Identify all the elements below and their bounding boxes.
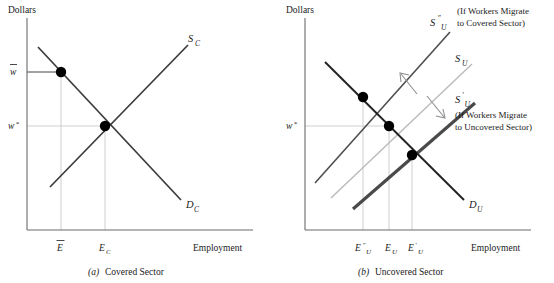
y-tick-star-glyph: * xyxy=(16,120,20,128)
migrate-to-covered-note-line2: to Covered Sector) xyxy=(457,18,525,28)
supply-prime-label-sub: U xyxy=(465,100,471,109)
panel-b-caption-text: Uncovered Sector xyxy=(375,267,444,277)
x-tick-label-e-bar: E xyxy=(56,243,63,253)
panel-b-x-tick-e-prime: E ′ U xyxy=(407,241,424,256)
supply-curve-covered xyxy=(50,45,188,187)
x-tick-e-prime-mark: ′ xyxy=(415,241,417,249)
equilibrium-point-double-prime xyxy=(358,92,368,102)
panel-b-uncovered-sector: Dollars Employment w * E ″ U E U E ′ U S… xyxy=(286,5,532,278)
demand-covered-label-sub: C xyxy=(194,205,200,214)
supply-covered-label-text: S xyxy=(188,33,194,44)
panel-a-x-tick-e-bar: E xyxy=(56,241,65,254)
x-tick-label-e-u: E xyxy=(384,243,391,253)
panel-b-x-tick-e-double-prime: E ″ U xyxy=(354,241,372,256)
supply-uncovered-label-text: S xyxy=(455,53,461,64)
panel-a-covered-sector: Dollars Employment w w * E E C S C D C xyxy=(8,5,253,278)
panel-a-guides xyxy=(27,72,105,230)
panel-a-y-tick-w-bar: w xyxy=(10,65,17,78)
x-tick-label-e-c-sub: C xyxy=(106,248,111,256)
x-tick-e-prime-sub: U xyxy=(418,248,424,256)
migrate-to-covered-note: (If Workers Migrate to Covered Sector) xyxy=(457,6,529,28)
supply-uncovered-double-prime-label: S ″ U xyxy=(430,14,447,32)
supply-uncovered-label-sub: U xyxy=(462,59,468,68)
panel-a-caption: (a) Covered Sector xyxy=(88,267,165,278)
equilibrium-point-covered xyxy=(100,121,110,131)
y-tick-label-w-star: w xyxy=(8,121,15,131)
panel-a-y-tick-w-star: w * xyxy=(8,120,20,132)
supply-uncovered-double-prime-curve xyxy=(315,32,450,183)
panel-b-y-axis-label: Dollars xyxy=(286,5,314,15)
supply-covered-label-sub: C xyxy=(195,39,201,48)
panel-b-caption: (b) Uncovered Sector xyxy=(358,267,444,278)
figure-svg: Dollars Employment w w * E E C S C D C xyxy=(0,0,554,283)
supply-double-prime-label-sub: U xyxy=(441,23,447,32)
demand-covered-label: D C xyxy=(185,199,200,214)
demand-covered-label-text: D xyxy=(185,199,194,210)
supply-uncovered-label: S U xyxy=(455,53,468,68)
panel-b-x-tick-e-u: E U xyxy=(384,243,398,256)
demand-uncovered-label-text: D xyxy=(468,199,477,210)
economics-figure: Dollars Employment w w * E E C S C D C xyxy=(0,0,554,283)
panel-a-y-axis-label: Dollars xyxy=(8,5,36,15)
equilibrium-point-uncovered xyxy=(384,121,394,131)
shift-left-arrow xyxy=(400,73,417,94)
supply-double-prime-label-text: S xyxy=(430,17,436,28)
x-tick-label-e-prime: E xyxy=(407,243,414,253)
migrate-to-uncovered-note-line1: (If Workers Migrate xyxy=(455,110,527,120)
panel-b-x-axis-label: Employment xyxy=(471,243,520,253)
panel-a-caption-text: Covered Sector xyxy=(105,267,165,277)
panel-b-y-tick-w-star: w * xyxy=(286,120,298,132)
panel-a-x-axis-label: Employment xyxy=(193,243,242,253)
supply-prime-label-text: S xyxy=(455,94,461,105)
supply-uncovered-prime-label: S ′ U xyxy=(455,91,471,109)
supply-uncovered-curve xyxy=(331,64,472,198)
migrate-to-uncovered-note: (If Workers Migrate to Uncovered Sector) xyxy=(455,110,532,132)
panel-b-guides xyxy=(305,97,412,230)
panel-a-caption-letter: (a) xyxy=(88,267,99,278)
panel-b-caption-letter: (b) xyxy=(358,267,369,278)
migrate-to-uncovered-note-line2: to Uncovered Sector) xyxy=(455,122,532,132)
shift-right-arrow xyxy=(427,96,445,118)
equilibrium-point-prime xyxy=(407,150,417,160)
x-tick-e-double-prime-sub: U xyxy=(366,248,372,256)
migrate-to-covered-note-line1: (If Workers Migrate xyxy=(457,6,529,16)
x-tick-e-u-sub: U xyxy=(392,248,398,256)
y-tick-star-glyph-b: * xyxy=(294,120,298,128)
wage-floor-point xyxy=(56,67,66,77)
panel-a-x-tick-e-c: E C xyxy=(98,243,111,256)
supply-covered-label: S C xyxy=(188,33,201,48)
demand-uncovered-label-sub: U xyxy=(477,205,483,214)
y-tick-label-w-star-b: w xyxy=(286,121,293,131)
demand-uncovered-label: D U xyxy=(468,199,483,214)
y-tick-label-w-bar: w xyxy=(10,67,17,77)
x-tick-label-e-double-prime: E xyxy=(354,243,361,253)
x-tick-label-e-c: E xyxy=(98,243,105,253)
